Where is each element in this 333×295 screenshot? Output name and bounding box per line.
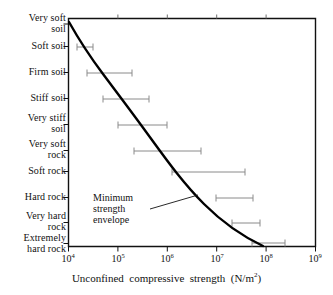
xtick-label-1e9: 109 — [308, 253, 321, 264]
annotation-leader-line — [150, 195, 198, 209]
xtick-label-1e4: 104 — [61, 253, 74, 264]
range-bar-firm-soil — [87, 70, 132, 77]
xtick-label-1e5: 105 — [111, 253, 124, 264]
plot-area — [0, 0, 333, 295]
y-axis-ticks — [64, 24, 69, 244]
range-bar-very-hard-rock — [232, 220, 260, 227]
xtick-label-1e7: 107 — [210, 253, 223, 264]
x-axis-ticks — [69, 247, 316, 252]
range-bar-hard-rock — [216, 195, 253, 202]
x-axis-title: Unconfined compressive strength (N/m2) — [0, 272, 333, 284]
chart-figure: Very soft soil Soft soil Firm soil Stiff… — [0, 0, 333, 295]
xtick-label-1e6: 106 — [160, 253, 173, 264]
xtick-label-1e8: 108 — [259, 253, 272, 264]
x-axis-title-text: Unconfined compressive strength (N/m2) — [72, 272, 261, 284]
range-bar-very-soft-rock — [134, 148, 201, 155]
range-bar-stiff-soil — [103, 96, 149, 103]
range-bar-soft-rock — [172, 169, 245, 176]
annotation-minimum-strength-envelope: Minimum strength envelope — [93, 192, 153, 225]
